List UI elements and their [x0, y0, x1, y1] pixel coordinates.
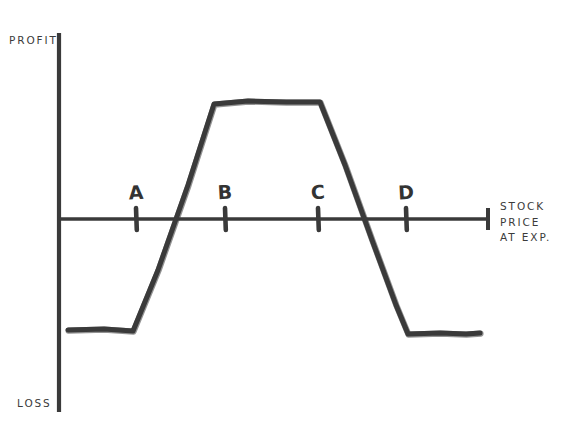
payoff-diagram: PROFIT LOSS STOCKPRICEAT EXP. ABCD: [0, 0, 577, 442]
x-axis-label-line-3: AT EXP.: [500, 231, 551, 243]
strike-tick-a: [136, 208, 137, 230]
y-axis-bottom-label: LOSS: [17, 396, 52, 412]
strike-tick-c: [318, 208, 319, 230]
strike-label-c: C: [306, 182, 331, 202]
strike-label-d: D: [394, 182, 419, 202]
payoff-chart-svg: [0, 0, 577, 442]
strike-label-b: B: [213, 182, 238, 202]
y-axis-top-label: PROFIT: [9, 33, 58, 49]
strike-tick-b: [225, 208, 226, 230]
x-axis-label-line-2: PRICE: [500, 216, 540, 228]
chart-ink-layer: [59, 33, 488, 412]
strike-tick-d: [406, 208, 407, 230]
x-axis-label-line-1: STOCK: [500, 200, 545, 212]
x-axis-label: STOCKPRICEAT EXP.: [500, 199, 551, 246]
strike-label-a: A: [124, 182, 149, 202]
